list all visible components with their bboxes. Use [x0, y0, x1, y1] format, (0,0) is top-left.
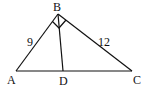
segment-ab	[16, 14, 58, 71]
vertex-label-c: C	[133, 73, 141, 87]
segment-bd	[58, 14, 63, 71]
vertex-label-d: D	[59, 74, 68, 88]
segment-bc	[58, 14, 132, 71]
side-label-ab: 9	[27, 35, 33, 49]
triangle-diagram: B A D C 9 12	[0, 0, 149, 88]
side-label-bc: 12	[98, 35, 110, 49]
vertex-label-b: B	[53, 0, 61, 14]
vertex-label-a: A	[7, 73, 16, 87]
